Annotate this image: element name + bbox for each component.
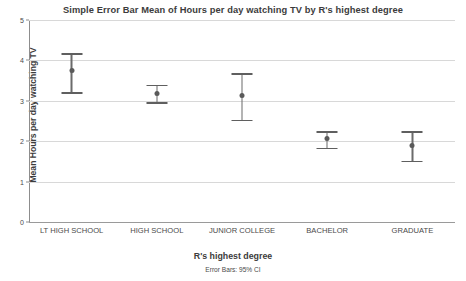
error-bar-cap-lower — [317, 148, 338, 150]
error-bar-series — [29, 20, 455, 222]
y-tick-label: 3 — [12, 97, 24, 104]
error-bar — [402, 20, 423, 222]
error-bar-cap-upper — [232, 73, 253, 75]
x-tick-label: HIGH SCHOOL — [120, 226, 194, 236]
error-bar — [146, 20, 167, 222]
gridline — [29, 222, 455, 223]
error-bar — [317, 20, 338, 222]
error-bar-cap-lower — [146, 102, 167, 104]
error-bar-cap-lower — [402, 161, 423, 163]
error-bar — [61, 20, 82, 222]
mean-marker — [69, 68, 74, 73]
x-tick-label: GRADUATE — [375, 226, 449, 236]
y-tick-label: 5 — [12, 17, 24, 24]
error-bar-cap-upper — [402, 131, 423, 133]
error-bar-cap-lower — [232, 120, 253, 122]
mean-marker — [410, 143, 415, 148]
error-bar-cap-upper — [146, 85, 167, 87]
x-tick-label: JUNIOR COLLEGE — [205, 226, 279, 236]
error-bar-cap-upper — [317, 131, 338, 133]
error-bars-footnote: Error Bars: 95% CI — [0, 266, 466, 273]
chart-title: Simple Error Bar Mean of Hours per day w… — [0, 5, 466, 15]
error-bar-cap-upper — [61, 53, 82, 55]
y-tick-label: 2 — [12, 138, 24, 145]
x-axis-ticks: LT HIGH SCHOOLHIGH SCHOOLJUNIOR COLLEGEB… — [29, 226, 455, 252]
mean-marker — [325, 136, 330, 141]
error-bar-chart: Simple Error Bar Mean of Hours per day w… — [0, 0, 466, 281]
y-tick-label: 4 — [12, 57, 24, 64]
x-axis-title: R's highest degree — [0, 251, 466, 261]
x-tick-label: BACHELOR — [290, 226, 364, 236]
y-tick-label: 1 — [12, 178, 24, 185]
error-bar — [232, 20, 253, 222]
mean-marker — [240, 93, 245, 98]
error-bar-cap-lower — [61, 92, 82, 94]
x-tick-label: LT HIGH SCHOOL — [35, 226, 109, 236]
error-bar-whisker — [71, 53, 72, 92]
plot-area: 012345 — [29, 20, 455, 222]
mean-marker — [154, 91, 159, 96]
y-tick-label: 0 — [12, 219, 24, 226]
